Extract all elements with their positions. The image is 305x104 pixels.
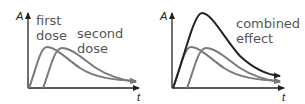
- x-axis-label: t: [282, 91, 286, 103]
- second-dose-curve: [187, 48, 280, 88]
- panel-separate-doses: A t first dose second dose: [15, 10, 141, 103]
- y-axis-label: A: [15, 10, 23, 22]
- x-axis-label: t: [137, 91, 141, 103]
- panel-combined-effect: A t combined effect: [159, 10, 300, 103]
- first-dose-label-line1: first: [36, 13, 61, 28]
- first-dose-label-line2: dose: [36, 28, 67, 43]
- combined-label-line2: effect: [236, 31, 273, 46]
- second-dose-label-line1: second: [77, 26, 123, 41]
- combined-label-line1: combined: [236, 16, 300, 31]
- second-dose-label-line2: dose: [77, 41, 108, 56]
- dose-effect-diagram: A t first dose second dose A t combined …: [0, 0, 305, 104]
- y-axis-label: A: [159, 10, 167, 22]
